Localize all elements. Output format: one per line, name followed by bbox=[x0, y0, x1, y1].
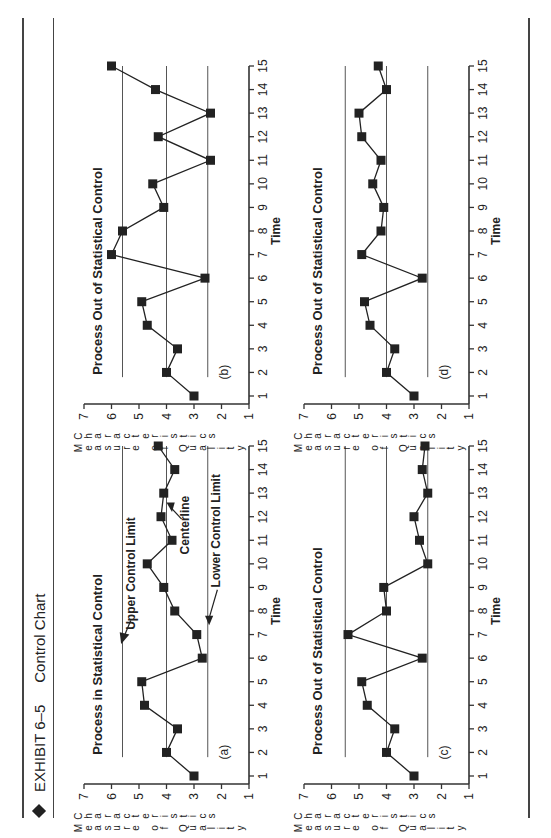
x-tick-label: 6 bbox=[476, 654, 490, 661]
chart-title: Process Out of Statistical Control bbox=[310, 547, 325, 754]
x-tick-label: 15 bbox=[256, 59, 270, 73]
x-tick-label: 9 bbox=[256, 584, 270, 591]
y-tick-label: 6 bbox=[105, 413, 119, 420]
data-point bbox=[201, 274, 210, 283]
x-tick-label: 11 bbox=[476, 154, 490, 167]
annotation-ucl: Upper Control Limit bbox=[124, 517, 138, 630]
x-tick-label: 4 bbox=[476, 322, 490, 329]
data-point bbox=[173, 344, 182, 353]
x-tick-label: 14 bbox=[256, 83, 270, 97]
y-tick-label: 7 bbox=[297, 413, 311, 420]
x-tick-label: 3 bbox=[256, 725, 270, 732]
data-point bbox=[192, 630, 201, 639]
data-point bbox=[170, 465, 179, 474]
x-tick-label: 5 bbox=[476, 678, 490, 685]
y-label-letter: s bbox=[426, 434, 437, 439]
data-point bbox=[162, 368, 171, 377]
y-label-letter: e bbox=[130, 445, 141, 451]
data-point bbox=[423, 489, 432, 498]
data-point bbox=[159, 203, 168, 212]
x-tick-label: 3 bbox=[476, 345, 490, 352]
y-tick-label: 1 bbox=[242, 793, 256, 800]
y-tick-label: 3 bbox=[407, 413, 421, 420]
y-label-letter: f bbox=[159, 446, 170, 449]
x-tick-label: 7 bbox=[476, 251, 490, 258]
data-point bbox=[206, 156, 215, 165]
data-point bbox=[157, 512, 166, 521]
y-label-letter: e bbox=[350, 825, 361, 831]
chart-title: Process in Statistical Control bbox=[90, 574, 105, 755]
x-tick-label: 8 bbox=[256, 607, 270, 614]
data-point bbox=[162, 748, 171, 757]
x-tick-label: 14 bbox=[256, 463, 270, 477]
data-point bbox=[198, 654, 207, 663]
y-tick-label: 3 bbox=[187, 413, 201, 420]
annotation-centerline: Centerline bbox=[178, 495, 192, 554]
x-tick-label: 8 bbox=[476, 227, 490, 234]
data-point bbox=[137, 297, 146, 306]
y-tick-label: 5 bbox=[352, 793, 366, 800]
data-point bbox=[151, 85, 160, 94]
x-tick-label: 1 bbox=[476, 772, 490, 779]
y-tick-label: 5 bbox=[352, 413, 366, 420]
x-tick-label: 12 bbox=[256, 510, 270, 524]
chart-title: Process Out of Statistical Control bbox=[310, 167, 325, 374]
chart-b: 1234567123456789101112131415TimeMeasureo… bbox=[73, 59, 283, 452]
y-tick-label: 6 bbox=[325, 793, 339, 800]
chart-a: 1234567123456789101112131415TimeMeasureo… bbox=[73, 439, 283, 832]
y-label-letter: s bbox=[206, 434, 217, 439]
x-tick-label: 2 bbox=[476, 369, 490, 376]
x-tick-label: 3 bbox=[256, 345, 270, 352]
data-point bbox=[118, 227, 127, 236]
x-tick-label: 6 bbox=[256, 274, 270, 281]
x-tick-label: 13 bbox=[256, 486, 270, 500]
y-tick-label: 2 bbox=[215, 413, 229, 420]
y-label-letter: s bbox=[426, 814, 437, 819]
x-tick-label: 7 bbox=[256, 631, 270, 638]
data-point bbox=[382, 368, 391, 377]
y-tick-label: 7 bbox=[297, 793, 311, 800]
x-tick-label: 1 bbox=[256, 772, 270, 779]
chart-title: Process Out of Statistical Control bbox=[90, 167, 105, 374]
rotated-page: EXHIBIT 6–5 Control Chart 12345671234567… bbox=[0, 0, 551, 838]
y-axis-label: MeasureofQualityCharacteristics bbox=[293, 432, 466, 452]
data-point bbox=[379, 203, 388, 212]
x-tick-label: 11 bbox=[476, 534, 490, 547]
x-tick-label: 6 bbox=[476, 274, 490, 281]
data-point bbox=[366, 321, 375, 330]
x-axis-label: Time bbox=[489, 217, 503, 245]
panel-label: (a) bbox=[217, 745, 231, 760]
x-tick-label: 4 bbox=[256, 702, 270, 709]
y-tick-label: 6 bbox=[105, 793, 119, 800]
y-label-letter: y bbox=[235, 826, 246, 831]
data-point bbox=[357, 132, 366, 141]
data-point bbox=[173, 724, 182, 733]
data-point bbox=[140, 701, 149, 710]
x-tick-label: 10 bbox=[256, 557, 270, 571]
data-point bbox=[168, 536, 177, 545]
data-point bbox=[190, 392, 199, 401]
data-point bbox=[390, 344, 399, 353]
data-point bbox=[344, 630, 353, 639]
y-tick-label: 2 bbox=[435, 793, 449, 800]
y-axis-label: MeasureofQualityCharacteristics bbox=[293, 812, 466, 832]
x-tick-label: 9 bbox=[476, 584, 490, 591]
y-tick-label: 3 bbox=[407, 793, 421, 800]
data-point bbox=[379, 583, 388, 592]
x-tick-label: 2 bbox=[256, 749, 270, 756]
x-tick-label: 1 bbox=[476, 392, 490, 399]
y-tick-label: 4 bbox=[380, 413, 394, 420]
data-point bbox=[107, 250, 116, 259]
y-tick-label: 2 bbox=[215, 793, 229, 800]
chart-c: 1234567123456789101112131415TimeMeasureo… bbox=[293, 439, 503, 832]
y-label-letter: f bbox=[379, 826, 390, 829]
x-tick-label: 9 bbox=[476, 204, 490, 211]
y-tick-label: 3 bbox=[187, 793, 201, 800]
x-tick-label: 7 bbox=[476, 631, 490, 638]
data-point bbox=[143, 321, 152, 330]
y-tick-label: 4 bbox=[380, 793, 394, 800]
x-tick-label: 10 bbox=[476, 557, 490, 571]
x-tick-label: 14 bbox=[476, 83, 490, 97]
y-tick-label: 1 bbox=[242, 413, 256, 420]
x-tick-label: 15 bbox=[476, 439, 490, 453]
